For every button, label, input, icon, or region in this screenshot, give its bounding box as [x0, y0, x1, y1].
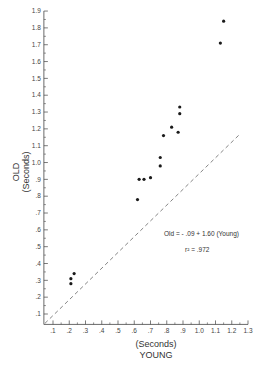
- x-tick-label: 1.1: [211, 327, 220, 334]
- y-tick-label: 1.8: [32, 24, 41, 31]
- data-point: [73, 272, 76, 275]
- data-point: [170, 126, 173, 129]
- x-tick-label: .7: [148, 327, 154, 334]
- y-tick-label: .1: [35, 310, 41, 317]
- y-tick-label: 1.9: [32, 7, 41, 14]
- y-tick-label: .2: [35, 293, 41, 300]
- y-tick-label: 1.7: [32, 41, 41, 48]
- y-tick-label: .6: [35, 226, 41, 233]
- data-point: [136, 198, 139, 201]
- y-tick-label: 1.6: [32, 58, 41, 65]
- x-axis-title: YOUNG: [139, 350, 172, 360]
- x-tick-label: .4: [99, 327, 105, 334]
- y-tick-label: .9: [35, 176, 41, 183]
- x-tick-label: .5: [115, 327, 121, 334]
- data-point: [138, 178, 141, 181]
- identity-reference-line: [45, 134, 240, 323]
- data-point: [69, 282, 72, 285]
- y-tick-label: 1.0: [32, 159, 41, 166]
- x-tick-label: .3: [83, 327, 89, 334]
- x-axis-units: (Seconds): [135, 339, 176, 349]
- data-point: [69, 277, 72, 280]
- data-point: [159, 156, 162, 159]
- data-point: [159, 164, 162, 167]
- data-point: [162, 134, 165, 137]
- x-tick-label: .9: [180, 327, 186, 334]
- y-tick-label: 1.3: [32, 108, 41, 115]
- x-tick-label: 1.3: [243, 327, 252, 334]
- x-tick-label: 1.0: [195, 327, 204, 334]
- regression-equation: Old = - .09 + 1.60 (Young): [164, 230, 239, 238]
- x-tick-label: .8: [164, 327, 170, 334]
- y-tick-label: .8: [35, 192, 41, 199]
- data-point: [219, 41, 222, 44]
- x-tick-label: .2: [67, 327, 73, 334]
- y-axis: .1.2.3.4.5.6.7.8.91.01.11.21.31.41.51.61…: [32, 7, 48, 324]
- x-tick-label: 1.2: [227, 327, 236, 334]
- y-tick-label: .5: [35, 243, 41, 250]
- data-point: [178, 105, 181, 108]
- y-tick-label: .7: [35, 209, 41, 216]
- data-point: [142, 178, 145, 181]
- scatter-chart: .1.2.3.4.5.6.7.8.91.01.11.21.31.41.51.61…: [0, 0, 262, 366]
- y-tick-label: 1.4: [32, 91, 41, 98]
- y-tick-label: .4: [35, 260, 41, 267]
- y-axis-units: (Seconds): [21, 151, 31, 192]
- y-tick-label: 1.5: [32, 75, 41, 82]
- y-tick-label: 1.2: [32, 125, 41, 132]
- y-axis-title: OLD: [11, 162, 21, 181]
- y-tick-label: .3: [35, 277, 41, 284]
- x-tick-label: .6: [132, 327, 138, 334]
- data-point: [149, 176, 152, 179]
- data-point: [178, 112, 181, 115]
- r-squared-annotation: r² = .972: [185, 246, 210, 253]
- data-point: [222, 20, 225, 23]
- x-tick-label: .1: [50, 327, 56, 334]
- y-tick-label: 1.1: [32, 142, 41, 149]
- x-axis: .1.2.3.4.5.6.7.8.91.01.11.21.3: [44, 320, 253, 334]
- data-point: [177, 131, 180, 134]
